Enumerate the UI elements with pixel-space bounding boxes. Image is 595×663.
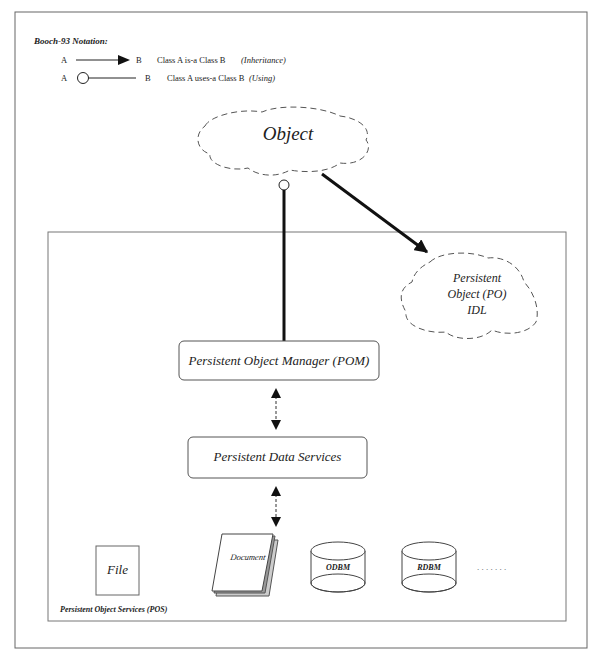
legend-using-a: A [61,73,67,83]
document-label: Document [217,552,279,562]
file-label: File [96,562,139,578]
legend-inheritance-desc: Class A is-a Class B [157,55,225,65]
legend-using-kind: (Using) [249,73,275,83]
legend-inheritance-arrow [76,55,130,65]
pom-pds-bidirectional-arrow [271,388,281,430]
legend-inheritance-kind: (Inheritance) [241,55,286,65]
po-idl-line-2: Object (PO) [422,286,532,302]
legend-using-b: B [145,73,151,83]
object-label: Object [248,123,328,145]
using-connector-circle [279,180,289,190]
odbm-label: ODBM [311,563,365,572]
legend-using-desc: Class A uses-a Class B [167,73,244,83]
rdbm-label: RDBM [402,563,456,572]
legend-using-line [78,73,137,84]
pom-label: Persistent Object Manager (POM) [179,353,379,369]
po-idl-label: Persistent Object (PO) IDL [422,270,532,318]
po-idl-line-1: Persistent [422,270,532,286]
legend-inheritance-a: A [61,55,67,65]
more-storage-ellipsis: . . . . . . . [477,562,506,572]
pos-container-label: Persistent Object Services (POS) [60,605,167,614]
document-icon [212,534,278,596]
notation-title: Booch-93 Notation: [34,36,108,46]
po-inherits-object-arrow [322,174,427,252]
pds-label: Persistent Data Services [188,449,367,465]
po-idl-line-3: IDL [422,302,532,318]
pds-document-bidirectional-arrow [271,486,281,527]
legend-inheritance-b: B [136,55,142,65]
